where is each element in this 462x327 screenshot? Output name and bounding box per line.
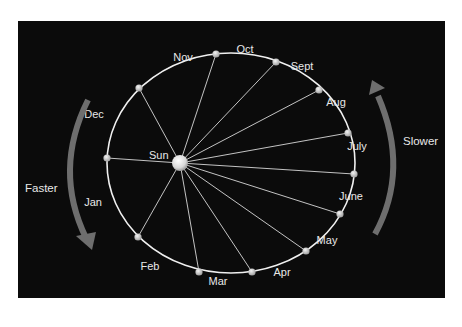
earth-position-icon (212, 50, 219, 57)
earth-position-icon (248, 268, 255, 275)
earth-position-icon (272, 58, 279, 65)
earth-position-icon (134, 233, 141, 240)
month-label-feb: Feb (141, 260, 160, 272)
sun-ray (180, 163, 354, 174)
sun-ray (180, 163, 340, 214)
month-label-jan: Jan (84, 196, 102, 208)
sun-ray (180, 163, 252, 272)
month-label-mar: Mar (209, 275, 228, 287)
sun-ray (180, 133, 348, 163)
sun-ray (180, 163, 199, 272)
sun-icon (172, 155, 188, 171)
sun-label: Sun (149, 149, 169, 161)
faster-label: Faster (25, 182, 58, 194)
month-label-june: June (339, 190, 363, 202)
orbit-diagram: Sun NovOctSeptAugJulyJuneMayAprMarFebJan… (0, 0, 462, 327)
earth-position-icon (344, 129, 351, 136)
earth-position-icon (103, 154, 110, 161)
earth-position-icon (315, 86, 322, 93)
month-label-dec: Dec (84, 108, 104, 120)
month-labels: NovOctSeptAugJulyJuneMayAprMarFebJanDec (84, 43, 367, 287)
earth-position-icon (350, 170, 357, 177)
month-label-apr: Apr (273, 266, 290, 278)
earth-position-icon (195, 268, 202, 275)
earth-position-icon (135, 84, 142, 91)
month-label-may: May (317, 234, 338, 246)
month-label-oct: Oct (236, 43, 253, 55)
sun-ray (180, 163, 306, 251)
sun-ray (180, 62, 276, 163)
sun-ray (138, 163, 180, 237)
slower-label: Slower (403, 135, 438, 147)
month-label-july: July (347, 140, 367, 152)
earth-position-icon (302, 247, 309, 254)
month-label-nov: Nov (173, 51, 193, 63)
faster-arrow-icon (70, 100, 96, 250)
month-label-sept: Sept (291, 60, 314, 72)
slower-arrow-icon (369, 80, 393, 234)
month-label-aug: Aug (326, 96, 346, 108)
earth-position-icon (336, 210, 343, 217)
sun-ray (107, 158, 180, 163)
